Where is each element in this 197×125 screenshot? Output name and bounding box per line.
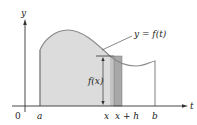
height-label: f(x)	[87, 76, 104, 86]
t-axis-label: t	[190, 101, 194, 111]
curve-label: y = f(t)	[133, 29, 167, 39]
tick-label-a: a	[37, 111, 42, 121]
shaded-area-region	[40, 30, 110, 106]
strip-x-to-xh-light	[110, 56, 114, 106]
t-axis-arrow-icon	[182, 104, 188, 108]
tick-label-x-plus-h: x + h	[115, 111, 139, 121]
curve-label-leader	[102, 36, 132, 50]
y-axis-arrow-icon	[23, 19, 27, 25]
origin-label: 0	[15, 111, 21, 121]
area-function-diagram: y t 0 a x x + h b y = f(t) f(x)	[0, 0, 197, 125]
tick-label-b: b	[152, 111, 158, 121]
tick-label-x: x	[104, 111, 109, 121]
y-axis-label: y	[20, 8, 27, 18]
